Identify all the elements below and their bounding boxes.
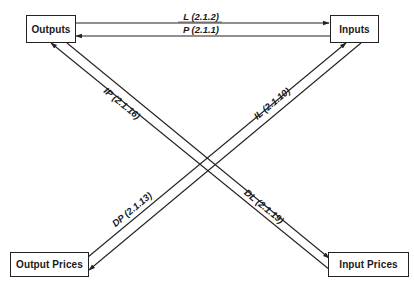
edges-layer: L (2.1.2) P (2.1.1) IP (2.1.16) DL (2.1.…: [0, 0, 414, 287]
edge-P-label: P (2.1.1): [183, 24, 219, 35]
node-output-prices: Output Prices: [10, 252, 89, 277]
edge-IP-arrow: [51, 43, 330, 270]
node-inputs: Inputs: [330, 15, 379, 43]
node-inputs-label: Inputs: [339, 24, 370, 35]
edge-L-label: L (2.1.2): [183, 11, 219, 22]
node-outputs-label: Outputs: [31, 24, 70, 35]
node-output-prices-label: Output Prices: [16, 259, 83, 270]
edge-DP-arrow: [89, 43, 361, 270]
edge-DP-label: DP (2.1.13): [110, 190, 154, 229]
edge-IP-label: IP (2.1.16): [102, 85, 143, 121]
edge-DL-arrow: [67, 43, 329, 258]
edge-IL-arrow: [88, 43, 346, 257]
edge-DL-label: DL (2.1.19): [242, 187, 286, 226]
node-outputs: Outputs: [26, 15, 76, 43]
node-input-prices-label: Input Prices: [339, 259, 397, 270]
diagram-canvas: L (2.1.2) P (2.1.1) IP (2.1.16) DL (2.1.…: [0, 0, 414, 287]
edge-IL-label: IL (2.1.10): [251, 85, 292, 121]
node-input-prices: Input Prices: [328, 252, 409, 277]
